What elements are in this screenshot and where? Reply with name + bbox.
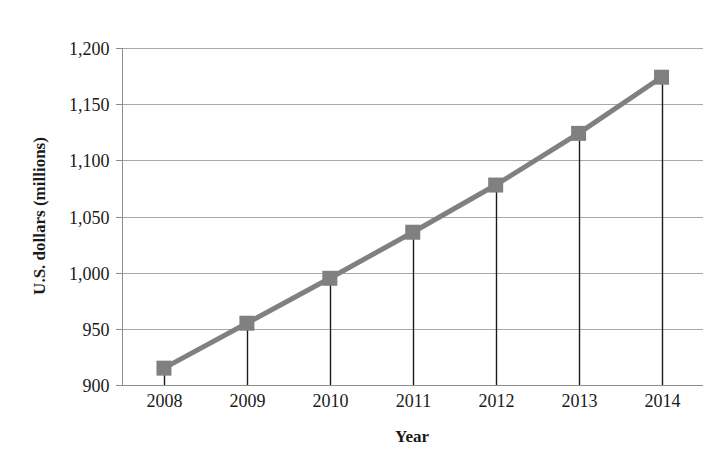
x-tick-label: 2011	[396, 391, 431, 411]
data-point-marker	[322, 271, 337, 286]
x-tick-label: 2008	[147, 391, 183, 411]
x-tick-label: 2010	[313, 391, 349, 411]
data-point-marker	[654, 70, 669, 85]
y-tick-label: 950	[83, 320, 110, 340]
y-tick-label: 1,000	[69, 264, 110, 284]
y-tick-label: 1,150	[69, 95, 110, 115]
x-tick-label: 2012	[479, 391, 515, 411]
data-point-marker	[405, 225, 420, 240]
line-chart: 9009501,0001,0501,1001,1501,200 20082009…	[0, 0, 726, 466]
y-tick-label: 1,100	[69, 151, 110, 171]
x-tick-label: 2009	[230, 391, 266, 411]
data-point-marker	[488, 178, 503, 193]
data-point-marker	[239, 316, 254, 331]
y-tick-label: 900	[83, 376, 110, 396]
y-tick-label: 1,200	[69, 39, 110, 59]
data-point-marker	[156, 361, 171, 376]
chart-background	[0, 0, 726, 466]
chart-canvas: 9009501,0001,0501,1001,1501,200 20082009…	[0, 0, 726, 466]
data-point-marker	[571, 126, 586, 141]
x-axis-title: Year	[395, 427, 429, 446]
x-tick-label: 2013	[562, 391, 598, 411]
y-tick-label: 1,050	[69, 208, 110, 228]
x-tick-label: 2014	[645, 391, 681, 411]
y-axis-title: U.S. dollars (millions)	[30, 137, 49, 295]
